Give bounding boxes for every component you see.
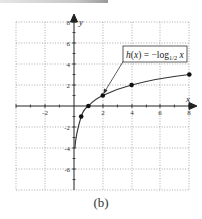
x-tick-label: 8 — [187, 109, 191, 117]
y-tick-label: 4 — [67, 61, 71, 69]
figure-caption: (b) — [0, 195, 202, 211]
y-tick-label: 8 — [67, 19, 71, 27]
y-axis-label: y — [78, 17, 83, 27]
x-tick-label: 4 — [130, 109, 134, 117]
tick-labels: -2 2 4 6 8 8 6 4 2 -2 -4 -6 — [42, 19, 191, 174]
x-tick-label: 2 — [101, 109, 105, 117]
x-tick-label: -2 — [42, 109, 48, 117]
x-tick-label: 6 — [158, 109, 162, 117]
y-tick-label: -4 — [64, 145, 70, 153]
data-point — [79, 114, 84, 119]
y-tick-label: 2 — [67, 82, 71, 90]
data-point — [129, 83, 134, 88]
data-point — [101, 93, 106, 98]
y-tick-label: -2 — [64, 124, 70, 132]
data-point — [86, 104, 91, 109]
data-point — [187, 72, 192, 77]
data-points — [79, 72, 192, 119]
annotation-arrow-line — [105, 60, 125, 92]
function-graph: -2 2 4 6 8 8 6 4 2 -2 -4 -6 y x h(x) = −… — [0, 0, 202, 219]
y-tick-label: 6 — [67, 40, 71, 48]
y-tick-label: -6 — [64, 166, 70, 174]
axes — [16, 14, 197, 190]
y-axis-arrow-icon — [71, 14, 78, 22]
x-axis-label: x — [185, 94, 190, 104]
function-annotation: h(x) = −log1/2 x — [104, 46, 188, 94]
